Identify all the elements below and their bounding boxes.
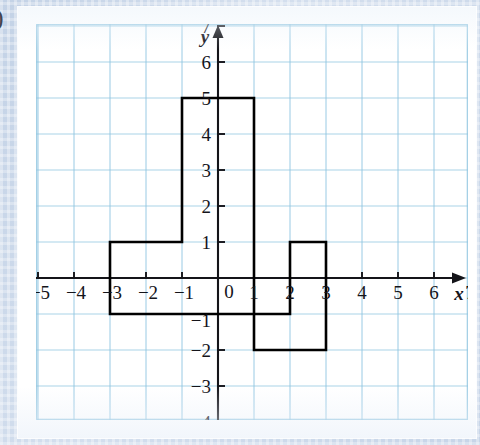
- tick-label: 1: [249, 282, 259, 303]
- tick-label: −4: [191, 412, 212, 420]
- coordinate-grid-svg: −5−4−3−2−112345677654321−1−2−3−40xy: [36, 24, 468, 420]
- tick-label: 6: [429, 282, 439, 303]
- x-axis-label: x: [453, 283, 464, 304]
- tick-label: −2: [191, 340, 211, 361]
- tick-label: 7: [465, 282, 468, 303]
- tick-label: 2: [285, 282, 295, 303]
- axis-labels: −5−4−3−2−112345677654321−1−2−3−40xy: [36, 24, 468, 420]
- tick-label: 4: [202, 124, 212, 145]
- tick-label: 6: [202, 52, 212, 73]
- tick-label: 5: [393, 282, 403, 303]
- coordinate-plot: −5−4−3−2−112345677654321−1−2−3−40xy: [36, 24, 468, 420]
- cut-off-edge-glyph: ): [0, 6, 9, 30]
- grid-lines: [36, 24, 468, 420]
- tick-label: 1: [202, 232, 212, 253]
- tick-label: −1: [191, 310, 211, 331]
- scanned-page: ) −5−4−3−2−112345677654321−1−2−3−40xy: [0, 0, 480, 445]
- tick-label: 3: [321, 282, 331, 303]
- tick-label: −5: [36, 282, 50, 303]
- y-axis-label: y: [199, 26, 210, 47]
- tick-label: −3: [191, 376, 211, 397]
- tick-label: 5: [202, 88, 212, 109]
- tick-label: 4: [357, 282, 367, 303]
- tick-label: −1: [174, 282, 194, 303]
- tick-label: 2: [202, 196, 212, 217]
- tick-label: −2: [138, 282, 158, 303]
- tick-label: −4: [66, 282, 87, 303]
- tick-label: 3: [202, 160, 212, 181]
- tick-label: 0: [224, 281, 234, 302]
- axis-lines: [36, 25, 466, 420]
- tick-label: −3: [102, 282, 122, 303]
